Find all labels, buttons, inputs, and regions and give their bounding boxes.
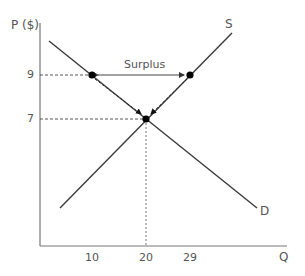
point-quantity-supplied	[186, 71, 193, 78]
y-tick-9: 9	[27, 69, 34, 81]
supply-demand-chart	[0, 0, 305, 276]
point-quantity-demanded	[88, 71, 95, 78]
y-axis-label: P ($)	[11, 19, 39, 31]
surplus-label: Surplus	[124, 59, 165, 71]
supply-label: S	[225, 18, 233, 30]
y-tick-7: 7	[27, 113, 34, 125]
x-tick-10: 10	[85, 252, 99, 264]
x-tick-29: 29	[183, 252, 197, 264]
point-equilibrium	[142, 115, 149, 122]
x-axis-label: Q	[279, 251, 288, 263]
demand-label: D	[260, 205, 269, 217]
x-tick-20: 20	[139, 252, 153, 264]
